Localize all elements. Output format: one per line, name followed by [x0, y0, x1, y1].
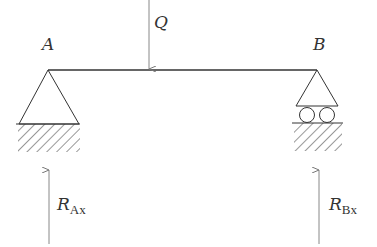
reaction-rbx-label: RBx	[328, 194, 357, 217]
reaction-rax-symbol: R	[56, 194, 70, 214]
reaction-rax-subscript: Ax	[70, 202, 86, 217]
reaction-rax-label: RAx	[56, 194, 86, 217]
roller-right	[320, 108, 335, 123]
load-q-label: Q	[154, 12, 168, 32]
support-a-label: A	[40, 34, 54, 54]
ground-hatch-a	[18, 124, 80, 152]
roller-left	[300, 108, 315, 123]
beam-diagram: Q A B RAx RBx	[0, 0, 377, 247]
support-b-label: B	[312, 34, 326, 54]
ground-hatch-b	[294, 123, 342, 151]
support-b-roller	[292, 70, 343, 151]
reaction-rbx-subscript: Bx	[342, 202, 358, 217]
support-a-pinned	[16, 70, 80, 152]
reaction-rbx-symbol: R	[328, 194, 342, 214]
